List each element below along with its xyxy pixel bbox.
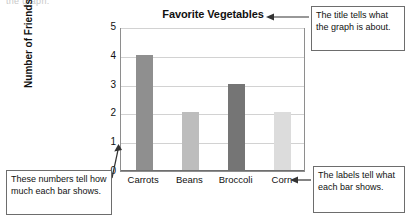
- title-callout: The title tells what the graph is about.: [311, 6, 405, 51]
- worksheet-figure: the graph. Favorite Vegetables Number of…: [0, 0, 410, 219]
- labels-callout: The labels tell what each bar shows.: [313, 166, 405, 213]
- numbers-callout: These numbers tell how much each bar sho…: [6, 170, 112, 215]
